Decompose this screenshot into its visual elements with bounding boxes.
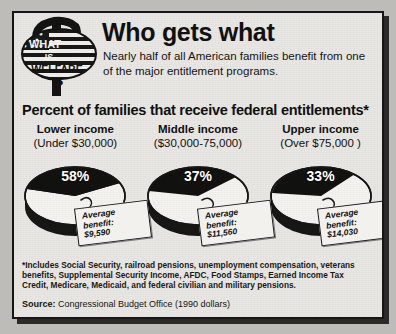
pie-chart-middle-income: 37% Average benefit: $11,560 (137, 152, 260, 252)
pie-column-middle-income: Middle income ($30,000-75,000) 37% (137, 123, 260, 252)
pie-percent-label: 58% (61, 168, 89, 184)
logo-text-welfare: WELFARE (31, 63, 82, 75)
column-range: (Under $30,000) (14, 136, 137, 150)
pie-column-upper-income: Upper income (Over $75,000 ) 33% (259, 123, 382, 252)
pie-percent-label: 33% (307, 168, 335, 184)
column-range: ($30,000-75,000) (137, 136, 260, 150)
pie-chart-group: Lower income (Under $30,000) (14, 123, 382, 252)
source-text: Congressional Budget Office (1990 dollar… (58, 299, 230, 309)
header: WHAT IS WELFARE ? Who gets what Nearly h… (14, 13, 382, 99)
chart-section-title: Percent of families that receive federal… (22, 102, 369, 118)
welfare-logo-icon: WHAT IS WELFARE ? (19, 16, 99, 98)
logo-text-is: IS (45, 52, 54, 62)
column-label: Upper income (259, 123, 382, 136)
source-label: Source: (22, 299, 56, 309)
pie-percent-label: 37% (184, 168, 212, 184)
footnote-text: *Includes Social Security, railroad pens… (22, 261, 370, 290)
infographic-root: WHAT IS WELFARE ? Who gets what Nearly h… (0, 0, 396, 334)
page-title: Who gets what (102, 18, 274, 47)
what-is-welfare-logo: WHAT IS WELFARE ? (19, 16, 99, 98)
source-line: Source: Congressional Budget Office (199… (22, 299, 230, 309)
infographic-panel: WHAT IS WELFARE ? Who gets what Nearly h… (12, 11, 384, 319)
pie-chart-lower-income: 58% Average benefit: $9,590 (14, 152, 137, 252)
average-benefit-tag: Average benefit: $14,030 (317, 200, 384, 247)
pie-column-lower-income: Lower income (Under $30,000) (14, 123, 137, 252)
column-range: (Over $75,000 ) (259, 136, 382, 150)
pie-chart-upper-income: 33% Average benefit: $14,030 (259, 152, 382, 252)
column-label: Lower income (14, 123, 137, 136)
column-label: Middle income (137, 123, 260, 136)
logo-text-what: WHAT (29, 38, 61, 50)
logo-text-question: ? (54, 76, 63, 93)
page-subtitle: Nearly half of all American families ben… (103, 49, 371, 78)
